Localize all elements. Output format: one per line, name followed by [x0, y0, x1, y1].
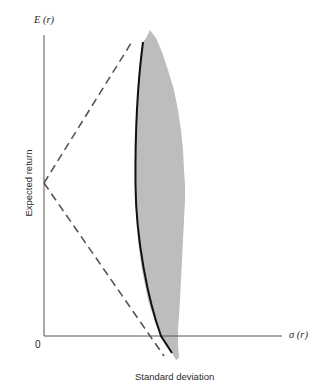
x-axis-title: Standard deviation [135, 371, 214, 382]
efficient-frontier-chart [0, 0, 324, 386]
upper-asymptote [44, 40, 133, 183]
y-axis-symbol: E (r) [34, 14, 54, 25]
feasible-set-region [136, 30, 186, 360]
y-axis-title: Expected return [23, 149, 34, 216]
origin-label: 0 [35, 339, 41, 350]
x-axis-symbol: σ (r) [289, 329, 308, 340]
